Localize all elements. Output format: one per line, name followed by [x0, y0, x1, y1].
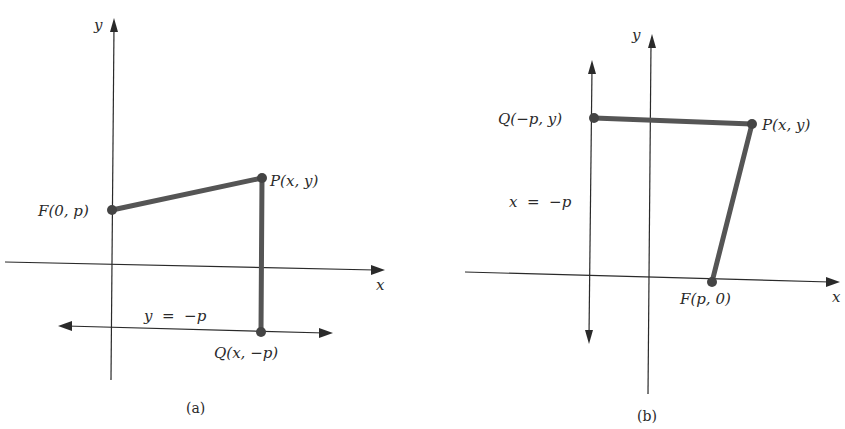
directrix-left-arrow-icon [58, 321, 72, 331]
point-P-b [747, 119, 757, 129]
segment-QP-b [594, 118, 752, 124]
figure-a: y x F(0, p) P(x, y) Q(x, −p) y = −p (a) [5, 16, 385, 416]
point-Q-label-a: Q(x, −p) [214, 344, 278, 362]
point-F-label-b: F(p, 0) [679, 290, 731, 308]
point-P-label-b: P(x, y) [761, 116, 810, 134]
point-Q-b [589, 113, 599, 123]
y-axis-arrow-icon [110, 18, 118, 32]
directrix-b [589, 68, 592, 336]
x-axis-label-a: x [376, 276, 385, 294]
point-F-b [707, 277, 717, 287]
point-Q-label-b: Q(−p, y) [498, 110, 562, 128]
caption-b: (b) [637, 408, 657, 424]
y-axis-b [648, 44, 651, 394]
directrix-right-arrow-icon [319, 328, 333, 338]
point-P-label-a: P(x, y) [269, 172, 318, 190]
point-F-label-a: F(0, p) [37, 202, 89, 220]
parabola-figures: y x F(0, p) P(x, y) Q(x, −p) y = −p (a) … [0, 0, 845, 429]
directrix-label-b: x = −p [509, 193, 572, 211]
point-F-a [107, 205, 117, 215]
figure-b: y x Q(−p, y) P(x, y) F(p, 0) x = −p (b) [465, 26, 841, 424]
x-axis-a [5, 262, 375, 270]
y-axis-arrow-icon [648, 34, 656, 48]
y-axis-label-b: y [631, 26, 641, 44]
segment-FP-a [112, 178, 262, 210]
directrix-top-arrow-icon [588, 60, 596, 74]
directrix-a [66, 326, 325, 333]
y-axis-label-a: y [93, 16, 103, 34]
segment-PQ-a [261, 178, 262, 332]
caption-a: (a) [186, 400, 205, 416]
directrix-bottom-arrow-icon [585, 330, 593, 344]
point-P-a [257, 173, 267, 183]
x-axis-arrow-icon [826, 277, 840, 287]
segment-PF-b [712, 124, 752, 282]
point-Q-a [256, 327, 266, 337]
x-axis-arrow-icon [371, 265, 385, 275]
x-axis-label-b: x [832, 288, 841, 306]
x-axis-b [465, 272, 830, 282]
directrix-label-a: y = −p [143, 307, 207, 325]
